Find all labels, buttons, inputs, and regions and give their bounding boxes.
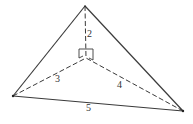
dashed-left-to-center [13,58,86,96]
label-right-to-center: 4 [117,80,122,90]
edge-top-right [85,6,183,111]
vertex-right [182,110,184,112]
vertex-left [12,95,14,97]
dashed-top-to-center [85,6,86,58]
triangle-diagram [0,0,193,124]
label-left-to-center: 3 [55,74,60,84]
vertex-top [84,5,86,7]
edge-top-left [13,6,85,96]
label-left-to-right: 5 [86,103,91,113]
edge-left-right [13,96,183,111]
angle-marker-tick-left [79,56,83,58]
label-top-to-center: 2 [87,29,92,39]
dashed-right-to-center [86,58,183,111]
